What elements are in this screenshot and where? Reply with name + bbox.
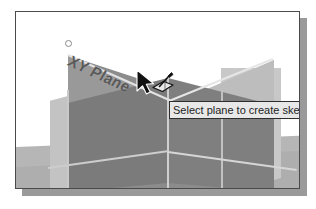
edge-center-vertical [167, 78, 169, 188]
edge-left-vertical [67, 90, 69, 188]
cad-viewport[interactable]: XY Plane Select plane to create sketch o… [16, 12, 299, 188]
origin-vertex-marker[interactable] [65, 40, 72, 47]
tooltip: Select plane to create sketch or [169, 101, 299, 119]
figure-frame: XY Plane Select plane to create sketch o… [15, 11, 300, 189]
screenshot-root: XY Plane Select plane to create sketch o… [0, 0, 316, 209]
tooltip-text: Select plane to create sketch or [173, 104, 299, 116]
